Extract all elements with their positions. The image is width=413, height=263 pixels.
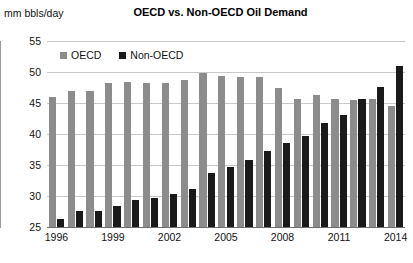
bar-oecd: [199, 73, 206, 227]
bar-groups: [47, 41, 405, 227]
bar-non-oecd: [340, 115, 347, 227]
bar-group: [181, 41, 196, 227]
y-axis-tick: 35: [7, 160, 41, 171]
bar-non-oecd: [227, 167, 234, 227]
bar-non-oecd: [208, 173, 215, 227]
bar-oecd: [331, 99, 338, 227]
bar-oecd: [49, 97, 56, 227]
bar-oecd: [350, 100, 357, 227]
bar-non-oecd: [95, 211, 102, 227]
x-axis-tick: 1996: [45, 231, 68, 243]
bar-group: [124, 41, 139, 227]
bar-oecd: [68, 91, 75, 227]
bar-oecd: [181, 80, 188, 227]
bar-group: [388, 41, 403, 227]
bar-group: [237, 41, 252, 227]
bar-group: [218, 41, 233, 227]
bar-non-oecd: [264, 151, 271, 227]
bar-group: [162, 41, 177, 227]
bar-non-oecd: [132, 200, 139, 227]
chart-title: OECD vs. Non-OECD Oil Demand: [0, 6, 413, 18]
bar-oecd: [143, 83, 150, 227]
bar-oecd: [294, 99, 301, 227]
bar-group: [369, 41, 384, 227]
bar-oecd: [275, 88, 282, 228]
bar-group: [256, 41, 271, 227]
bar-group: [143, 41, 158, 227]
y-axis-tick: 55: [7, 36, 41, 47]
bar-group: [350, 41, 365, 227]
bar-group: [294, 41, 309, 227]
gridline: [47, 227, 405, 228]
bar-oecd: [256, 77, 263, 227]
bar-oecd: [237, 77, 244, 227]
bar-group: [331, 41, 346, 227]
bar-non-oecd: [358, 99, 365, 227]
bar-group: [49, 41, 64, 227]
bar-group: [313, 41, 328, 227]
y-axis-line: [0, 41, 1, 228]
x-axis-tick: 2002: [158, 231, 181, 243]
bar-non-oecd: [396, 66, 403, 227]
x-axis-tick: 2008: [271, 231, 294, 243]
bar-non-oecd: [189, 189, 196, 227]
y-axis-tick: 40: [7, 129, 41, 140]
x-axis-tick: 2005: [214, 231, 237, 243]
bar-oecd: [388, 106, 395, 227]
y-axis-tick-labels: 25303540455055: [5, 0, 41, 263]
bar-non-oecd: [151, 198, 158, 227]
bar-non-oecd: [321, 123, 328, 227]
bar-non-oecd: [302, 136, 309, 227]
bar-non-oecd: [113, 206, 120, 227]
bar-oecd: [218, 76, 225, 227]
bar-oecd: [369, 99, 376, 227]
bar-non-oecd: [377, 87, 384, 227]
bar-non-oecd: [57, 219, 64, 227]
bar-group: [199, 41, 214, 227]
bar-group: [105, 41, 120, 227]
bar-non-oecd: [245, 160, 252, 227]
bar-non-oecd: [76, 211, 83, 227]
chart-root: mm bbls/day OECD vs. Non-OECD Oil Demand…: [0, 0, 413, 263]
x-axis-tick: 2014: [384, 231, 407, 243]
bar-non-oecd: [170, 194, 177, 227]
bar-oecd: [313, 95, 320, 227]
bar-group: [68, 41, 83, 227]
y-axis-tick: 45: [7, 98, 41, 109]
bar-oecd: [124, 82, 131, 227]
y-axis-tick: 30: [7, 191, 41, 202]
x-axis-tick: 1999: [101, 231, 124, 243]
bar-group: [275, 41, 290, 227]
bar-group: [86, 41, 101, 227]
bar-oecd: [86, 91, 93, 227]
y-axis-tick: 25: [7, 222, 41, 233]
y-axis-tick: 50: [7, 67, 41, 78]
bar-oecd: [105, 83, 112, 227]
x-axis-tick: 2011: [328, 231, 351, 243]
bar-oecd: [162, 83, 169, 227]
bar-non-oecd: [283, 143, 290, 227]
